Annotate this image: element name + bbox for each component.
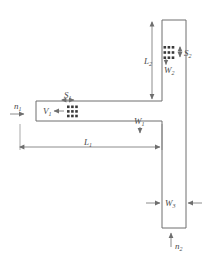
- label-W2: W2: [164, 65, 175, 76]
- via-array-vertical-arm: [164, 46, 175, 59]
- via-array-horizontal-arm: [67, 106, 78, 118]
- label-W1: W1: [134, 116, 145, 127]
- figure-canvas: L2 S2 W2 S1 V1 n1: [0, 0, 215, 258]
- label-L2: L2: [143, 56, 152, 67]
- label-S2: S2: [184, 48, 192, 59]
- label-n2: n2: [175, 241, 183, 252]
- label-V1: V1: [43, 106, 52, 117]
- label-L1: L1: [83, 137, 92, 148]
- t-structure-diagram: L2 S2 W2 S1 V1 n1: [0, 0, 215, 258]
- label-S1: S1: [64, 90, 72, 101]
- label-n1: n1: [14, 101, 22, 112]
- label-W3: W3: [165, 198, 176, 209]
